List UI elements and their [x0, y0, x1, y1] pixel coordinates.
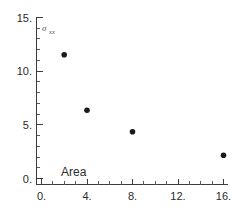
y-axis-major-ticks	[37, 18, 44, 179]
data-series	[61, 52, 226, 158]
y-axis-title-subscript: xx	[48, 28, 55, 35]
y-tick-label-0: 0.	[23, 173, 32, 185]
y-axis-title-symbol: σ	[42, 23, 47, 33]
y-tick-label-15: 15.	[17, 12, 32, 24]
plot-canvas: 15. 10. 5. 0. 0. 4. 8. 12. 16. σ xx Area	[0, 0, 243, 215]
y-axis-minor-ticks	[37, 28, 41, 168]
y-tick-label-10: 10.	[17, 65, 32, 77]
y-axis-title: σ xx	[42, 23, 55, 35]
x-axis-major-ticks	[42, 179, 224, 185]
x-tick-label-0: 0.	[37, 190, 46, 202]
y-tick-label-5: 5.	[23, 119, 32, 131]
data-point	[61, 52, 67, 58]
x-tick-label-4: 4.	[82, 190, 91, 202]
data-point	[221, 152, 227, 158]
x-tick-label-8: 8.	[128, 190, 137, 202]
x-tick-label-16: 16.	[216, 190, 231, 202]
data-point	[84, 107, 90, 113]
scatter-plot-figure: 15. 10. 5. 0. 0. 4. 8. 12. 16. σ xx Area	[0, 0, 243, 215]
x-tick-label-12: 12.	[170, 190, 185, 202]
x-axis-title: Area	[61, 165, 87, 179]
data-point	[130, 129, 136, 135]
